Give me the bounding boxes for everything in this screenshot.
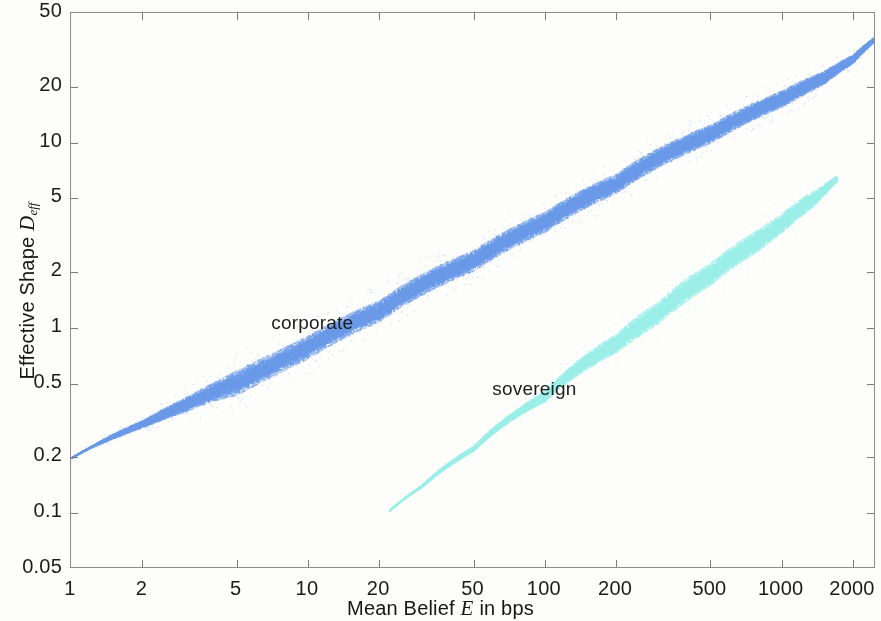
x-axis-title-prefix: Mean Belief <box>347 597 461 619</box>
y-tick-mark <box>71 457 78 458</box>
x-tick-mark <box>308 13 309 20</box>
plot-area: corporatesovereign <box>70 12 875 568</box>
y-axis-title: Effective Shape Deff <box>15 1 41 581</box>
y-tick-label: 20 <box>39 73 62 96</box>
y-tick-label: 50 <box>39 0 62 22</box>
x-tick-mark <box>379 13 380 20</box>
y-axis-title-variable: D <box>15 216 39 231</box>
x-axis-title-suffix: in bps <box>474 597 534 619</box>
x-tick-mark <box>710 560 711 567</box>
y-tick-mark <box>71 384 78 385</box>
y-tick-mark <box>71 272 78 273</box>
x-tick-mark <box>782 13 783 20</box>
x-axis-title-variable: E <box>461 596 474 620</box>
x-tick-mark <box>545 560 546 567</box>
y-tick-mark <box>867 198 874 199</box>
x-tick-mark <box>142 560 143 567</box>
x-tick-mark <box>142 13 143 20</box>
y-tick-label: 1 <box>51 314 62 337</box>
y-tick-mark <box>71 328 78 329</box>
y-tick-label: 5 <box>51 184 62 207</box>
x-tick-mark <box>237 13 238 20</box>
y-tick-mark <box>867 143 874 144</box>
y-tick-mark <box>867 384 874 385</box>
x-tick-mark <box>545 13 546 20</box>
x-tick-mark <box>379 560 380 567</box>
x-tick-mark <box>474 13 475 20</box>
x-tick-mark <box>308 560 309 567</box>
y-tick-mark <box>71 143 78 144</box>
y-tick-mark <box>71 87 78 88</box>
x-tick-mark <box>710 13 711 20</box>
scatter-canvas <box>71 13 875 568</box>
x-tick-mark <box>474 560 475 567</box>
y-tick-mark <box>867 87 874 88</box>
figure-scatter-effective-shape: corporatesovereign 0.050.10.20.512510205… <box>0 0 881 621</box>
x-tick-mark <box>616 560 617 567</box>
y-tick-mark <box>71 198 78 199</box>
y-tick-mark <box>867 457 874 458</box>
y-tick-mark <box>867 513 874 514</box>
series-label-corporate: corporate <box>271 312 353 334</box>
y-tick-mark <box>71 513 78 514</box>
y-tick-mark <box>867 272 874 273</box>
x-tick-mark <box>782 560 783 567</box>
series-label-sovereign: sovereign <box>492 378 576 400</box>
y-axis-title-subscript: eff <box>25 203 40 216</box>
x-tick-mark <box>853 13 854 20</box>
y-axis-title-prefix: Effective Shape <box>16 231 38 379</box>
x-tick-mark <box>853 560 854 567</box>
x-axis-title: Mean Belief E in bps <box>0 596 881 621</box>
y-tick-mark <box>867 328 874 329</box>
x-tick-mark <box>237 560 238 567</box>
x-tick-mark <box>616 13 617 20</box>
y-tick-label: 2 <box>51 258 62 281</box>
y-tick-label: 10 <box>39 129 62 152</box>
